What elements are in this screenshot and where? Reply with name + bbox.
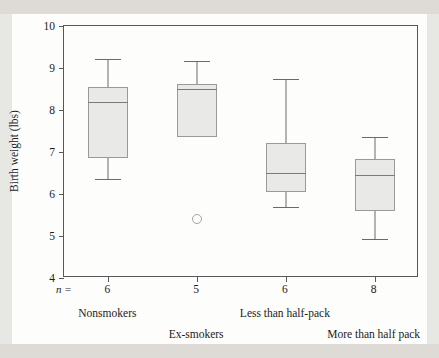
y-tick-label-6: 6 bbox=[49, 189, 55, 201]
plot-area: 10987654 bbox=[63, 25, 418, 277]
y-tick-label-5: 5 bbox=[49, 231, 55, 243]
box-plot-2 bbox=[177, 26, 217, 276]
upper-whisker-cap-1 bbox=[95, 59, 121, 60]
category-label-4: More than half pack bbox=[327, 328, 420, 340]
y-tick-4: 4 bbox=[59, 278, 64, 279]
upper-whisker-3 bbox=[285, 79, 286, 143]
figure-container: Birth weight (lbs) 10987654 n = 6568 Non… bbox=[0, 0, 439, 358]
y-tick-10: 10 bbox=[59, 26, 64, 27]
box-plot-1 bbox=[88, 26, 128, 276]
x-tick-3 bbox=[286, 276, 287, 282]
y-tick-label-4: 4 bbox=[49, 273, 55, 285]
y-tick-9: 9 bbox=[59, 68, 64, 69]
scan-artifact-bottom bbox=[0, 344, 439, 358]
x-tick-2 bbox=[197, 276, 198, 282]
lower-whisker-1 bbox=[108, 158, 109, 179]
box-iqr-4 bbox=[355, 159, 395, 211]
y-tick-label-8: 8 bbox=[49, 105, 55, 117]
upper-whisker-cap-2 bbox=[184, 61, 210, 62]
sample-size-4: 8 bbox=[371, 283, 377, 295]
box-iqr-3 bbox=[266, 143, 306, 192]
upper-whisker-4 bbox=[374, 137, 375, 159]
sample-size-2: 5 bbox=[193, 283, 199, 295]
lower-whisker-4 bbox=[374, 211, 375, 239]
lower-whisker-cap-3 bbox=[273, 207, 299, 208]
upper-whisker-2 bbox=[197, 61, 198, 84]
y-tick-label-7: 7 bbox=[49, 147, 55, 159]
box-plot-3 bbox=[266, 26, 306, 276]
upper-whisker-cap-3 bbox=[273, 79, 299, 80]
outlier-2-1 bbox=[192, 214, 202, 224]
y-tick-8: 8 bbox=[59, 110, 64, 111]
box-plot-4 bbox=[355, 26, 395, 276]
y-axis-label: Birth weight (lbs) bbox=[6, 25, 22, 277]
lower-whisker-cap-1 bbox=[95, 179, 121, 180]
upper-whisker-1 bbox=[108, 59, 109, 87]
lower-whisker-3 bbox=[285, 192, 286, 207]
category-label-1: Nonsmokers bbox=[78, 307, 136, 319]
upper-whisker-cap-4 bbox=[362, 137, 388, 138]
box-iqr-2 bbox=[177, 84, 217, 137]
median-line-4 bbox=[355, 175, 395, 176]
category-label-2: Ex-smokers bbox=[169, 328, 224, 340]
y-tick-7: 7 bbox=[59, 152, 64, 153]
median-line-1 bbox=[88, 102, 128, 103]
scan-artifact-top bbox=[0, 0, 439, 14]
sample-size-1: 6 bbox=[105, 283, 111, 295]
median-line-2 bbox=[177, 89, 217, 90]
y-tick-label-10: 10 bbox=[44, 21, 56, 33]
y-axis-label-text: Birth weight (lbs) bbox=[8, 110, 20, 192]
y-tick-5: 5 bbox=[59, 236, 64, 237]
box-iqr-1 bbox=[88, 87, 128, 158]
x-tick-1 bbox=[108, 276, 109, 282]
sample-size-3: 6 bbox=[282, 283, 288, 295]
y-tick-6: 6 bbox=[59, 194, 64, 195]
y-tick-label-9: 9 bbox=[49, 63, 55, 75]
median-line-3 bbox=[266, 173, 306, 174]
x-tick-4 bbox=[375, 276, 376, 282]
category-label-3: Less than half-pack bbox=[240, 307, 330, 319]
lower-whisker-cap-4 bbox=[362, 239, 388, 240]
sample-size-prefix: n = bbox=[56, 283, 72, 295]
